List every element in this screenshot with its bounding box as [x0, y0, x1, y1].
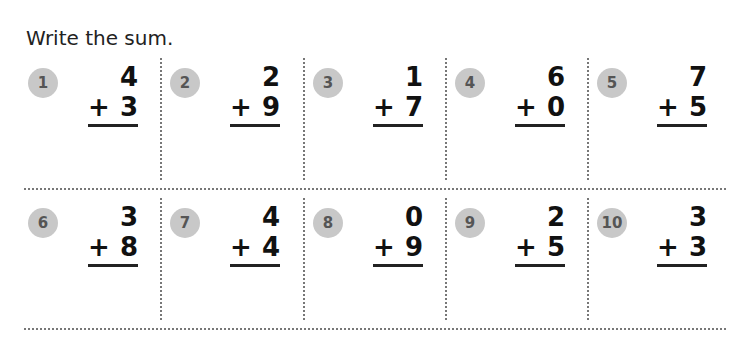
problem-number-badge: 3 [313, 68, 343, 98]
addend-top: 3 [657, 202, 707, 232]
problem-3: 3 1+7 [303, 58, 447, 180]
problem-number-badge: 6 [28, 208, 58, 238]
addend-bottom: 0 [547, 92, 565, 122]
problem-7: 7 4+4 [160, 198, 304, 320]
problem-number-badge: 5 [597, 68, 627, 98]
plus-sign: + [373, 232, 395, 262]
plus-sign: + [515, 92, 537, 122]
addend-bottom: 5 [547, 232, 565, 262]
problem-10: 10 3+3 [587, 198, 731, 320]
problem-row-2: 6 3+8 7 4+4 8 0+9 9 2+5 10 3+3 [20, 198, 726, 320]
row-divider [24, 188, 726, 190]
problem-9: 9 2+5 [445, 198, 589, 320]
addend-bottom: 4 [262, 232, 280, 262]
plus-sign: + [230, 232, 252, 262]
plus-sign: + [230, 92, 252, 122]
problem-2: 2 2+9 [160, 58, 304, 180]
addend-bottom: 3 [689, 232, 707, 262]
addend-bottom: 8 [120, 232, 138, 262]
problem-number-badge: 10 [597, 208, 627, 238]
addend-top: 3 [88, 202, 138, 232]
addend-top: 2 [230, 62, 280, 92]
problem-5: 5 7+5 [587, 58, 731, 180]
plus-sign: + [373, 92, 395, 122]
addend-bottom: 7 [405, 92, 423, 122]
addend-top: 6 [515, 62, 565, 92]
problem-6: 6 3+8 [20, 198, 162, 320]
plus-sign: + [515, 232, 537, 262]
addend-top: 0 [373, 202, 423, 232]
addend-top: 1 [373, 62, 423, 92]
plus-sign: + [657, 92, 679, 122]
addend-top: 2 [515, 202, 565, 232]
addend-top: 4 [230, 202, 280, 232]
addend-bottom: 5 [689, 92, 707, 122]
problem-number-badge: 8 [313, 208, 343, 238]
plus-sign: + [88, 92, 110, 122]
addend-top: 7 [657, 62, 707, 92]
addend-top: 4 [88, 62, 138, 92]
problem-number-badge: 2 [170, 68, 200, 98]
plus-sign: + [657, 232, 679, 262]
addend-bottom: 3 [120, 92, 138, 122]
problem-row-1: 1 4+3 2 2+9 3 1+7 4 6+0 5 7+5 [20, 58, 726, 180]
problem-number-badge: 9 [455, 208, 485, 238]
problem-1: 1 4+3 [20, 58, 162, 180]
problem-number-badge: 4 [455, 68, 485, 98]
plus-sign: + [88, 232, 110, 262]
problem-number-badge: 1 [28, 68, 58, 98]
instruction: Write the sum. [26, 26, 173, 50]
addend-bottom: 9 [262, 92, 280, 122]
problem-4: 4 6+0 [445, 58, 589, 180]
problem-8: 8 0+9 [303, 198, 447, 320]
problem-number-badge: 7 [170, 208, 200, 238]
addend-bottom: 9 [405, 232, 423, 262]
row-divider [24, 328, 726, 330]
